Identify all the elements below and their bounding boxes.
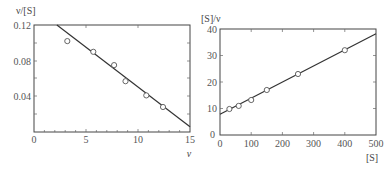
right-x-ticks bbox=[251, 29, 345, 135]
right-xtick-400: 400 bbox=[337, 138, 352, 149]
left-chart: ν/[S] 0.12 0.08 0.04 0 5 10 15 ν bbox=[14, 5, 196, 159]
data-point bbox=[264, 87, 269, 92]
left-xtick-15: 15 bbox=[185, 134, 195, 145]
right-chart: [S]/ν 40 30 20 10 0 0 100 200 300 400 50… bbox=[201, 13, 384, 163]
left-plot-frame bbox=[34, 25, 190, 132]
right-x-axis-title: [S] bbox=[366, 152, 378, 163]
left-y-ticks bbox=[34, 43, 190, 114]
left-ytick-0.08: 0.08 bbox=[14, 56, 32, 67]
data-point bbox=[123, 79, 128, 84]
left-ytick-0.12: 0.12 bbox=[14, 20, 32, 31]
right-y-axis-title: [S]/ν bbox=[201, 13, 221, 24]
right-plot-frame bbox=[220, 29, 376, 135]
left-x-axis-title: ν bbox=[187, 148, 192, 159]
left-y-axis-title: ν/[S] bbox=[16, 5, 36, 16]
data-point bbox=[65, 39, 70, 44]
left-xtick-10: 10 bbox=[133, 134, 143, 145]
data-point bbox=[227, 106, 232, 111]
data-point bbox=[112, 63, 117, 68]
right-ytick-10: 10 bbox=[207, 103, 217, 114]
data-point bbox=[295, 71, 300, 76]
right-ytick-40: 40 bbox=[207, 24, 217, 35]
left-fit-line bbox=[57, 25, 190, 127]
left-xtick-5: 5 bbox=[84, 134, 89, 145]
figure: ν/[S] 0.12 0.08 0.04 0 5 10 15 ν [S]/ν 4 bbox=[0, 0, 391, 172]
data-point bbox=[249, 97, 254, 102]
data-point bbox=[91, 49, 96, 54]
right-y-ticks bbox=[220, 56, 376, 109]
left-ytick-0.04: 0.04 bbox=[14, 91, 32, 102]
right-xtick-100: 100 bbox=[244, 138, 259, 149]
right-ytick-30: 30 bbox=[207, 50, 217, 61]
data-point bbox=[342, 48, 347, 53]
right-xtick-500: 500 bbox=[369, 138, 384, 149]
left-xtick-0: 0 bbox=[32, 134, 37, 145]
data-point bbox=[144, 93, 149, 98]
data-point bbox=[160, 104, 165, 109]
left-data-points bbox=[65, 39, 166, 110]
right-xtick-300: 300 bbox=[306, 138, 321, 149]
right-xtick-200: 200 bbox=[275, 138, 290, 149]
data-point bbox=[236, 103, 241, 108]
right-ytick-20: 20 bbox=[207, 77, 217, 88]
right-xtick-0: 0 bbox=[218, 138, 223, 149]
right-ytick-0: 0 bbox=[210, 129, 215, 140]
